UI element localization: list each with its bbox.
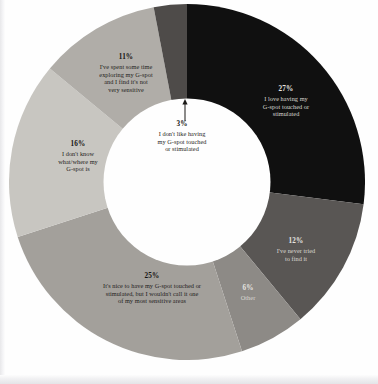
slice-desc-dont-know: I don't knowwhat/where myG-spot is <box>26 150 130 173</box>
slice-label-love: 27% I love having myG-spot touched orsti… <box>236 85 336 118</box>
up-arrow-icon <box>181 99 189 121</box>
slice-percent-love: 27% <box>236 85 336 94</box>
slice-desc-nice: It's nice to have my G-spot touched orst… <box>62 282 242 305</box>
slice-label-dont-like: 3% I don't like havingmy G-spot touchedo… <box>124 120 240 153</box>
slice-percent-dont-know: 16% <box>26 140 130 149</box>
slice-percent-never-tried: 12% <box>256 237 336 246</box>
slice-label-nice: 25% It's nice to have my G-spot touched … <box>62 272 242 305</box>
slice-label-not-sensitive: 11% I've spent some timeexploring my G-s… <box>63 53 189 94</box>
donut-chart: 27% I love having myG-spot touched orsti… <box>0 0 378 384</box>
slice-label-dont-know: 16% I don't knowwhat/where myG-spot is <box>26 140 130 173</box>
slice-desc-not-sensitive: I've spent some timeexploring my G-spota… <box>63 63 189 94</box>
slice-percent-not-sensitive: 11% <box>63 53 189 62</box>
slice-percent-dont-like: 3% <box>124 120 240 129</box>
slice-desc-love: I love having myG-spot touched orstimula… <box>236 95 336 118</box>
scanned-page: 27% I love having myG-spot touched orsti… <box>0 0 378 384</box>
slice-percent-nice: 25% <box>62 272 242 281</box>
slice-desc-dont-like: I don't like havingmy G-spot touchedor s… <box>124 130 240 153</box>
slice-desc-never-tried: I've never triedto find it <box>256 247 336 262</box>
slice-label-never-tried: 12% I've never triedto find it <box>256 237 336 262</box>
